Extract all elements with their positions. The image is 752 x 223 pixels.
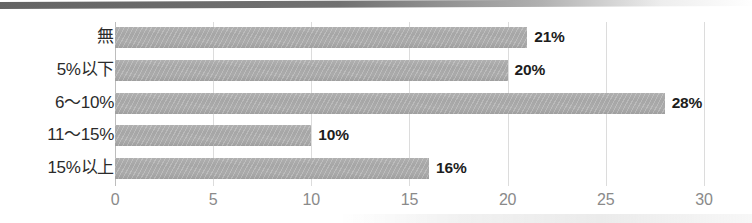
category-label: 11〜15%: [0, 124, 114, 146]
bar-value-label: 21%: [534, 26, 564, 48]
x-tick-label: 0: [111, 190, 120, 210]
category-label: 無: [0, 26, 114, 48]
bar-row: 20%: [115, 55, 682, 88]
bar-row: 10%: [115, 120, 682, 153]
x-tick-label: 15: [401, 190, 418, 210]
scan-artifact-top-rule: [0, 0, 752, 9]
x-tick-label: 20: [499, 190, 516, 210]
plot-area: 21%20%28%10%16%: [115, 22, 682, 186]
gridline: [704, 22, 705, 186]
x-tick-label: 25: [597, 190, 614, 210]
category-axis-labels: 無5%以下6〜10%11〜15%15%以上: [0, 22, 114, 186]
bar-row: 21%: [115, 22, 682, 55]
bar: [115, 27, 527, 48]
bar: [115, 93, 665, 114]
x-tick-label: 30: [695, 190, 712, 210]
bar-value-label: 20%: [515, 59, 545, 81]
bar-value-label: 28%: [672, 92, 702, 114]
bar-row: 16%: [115, 153, 682, 186]
horizontal-bar-chart: 無5%以下6〜10%11〜15%15%以上 21%20%28%10%16% 05…: [0, 0, 752, 223]
category-label: 6〜10%: [0, 92, 114, 114]
bar: [115, 60, 508, 81]
x-tick-label: 10: [303, 190, 320, 210]
category-label: 5%以下: [0, 59, 114, 81]
bar-row: 28%: [115, 88, 682, 121]
x-axis-tick-labels: 051015202530: [115, 190, 682, 216]
bar: [115, 158, 429, 179]
bar-value-label: 16%: [436, 157, 466, 179]
category-label: 15%以上: [0, 157, 114, 179]
bar: [115, 125, 311, 146]
x-tick-label: 5: [209, 190, 218, 210]
scan-artifact-bottom-smudge: [0, 214, 752, 223]
bar-value-label: 10%: [318, 124, 348, 146]
